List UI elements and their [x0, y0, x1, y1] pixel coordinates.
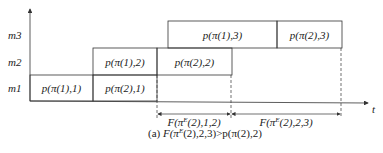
machine-label-m2: m2 — [8, 56, 22, 68]
job-label: p(π(1),2) — [104, 56, 145, 69]
job-box: p(π(2),1) — [93, 75, 157, 101]
interval-label: F(πE(2),2,3) — [258, 116, 313, 129]
job-label: p(π(2),2) — [174, 56, 215, 69]
job-label: p(π(1),1) — [41, 82, 82, 95]
job-label: p(π(2),3) — [289, 29, 330, 42]
job-box: p(π(2),3) — [277, 21, 342, 48]
time-axis-label: t — [372, 103, 376, 115]
gantt-diagram: m1m2m3 p(π(1),1)p(π(2),1)p(π(1),2)p(π(2)… — [0, 0, 383, 153]
job-box: p(π(1),3) — [168, 21, 277, 48]
machine-label-m3: m3 — [8, 29, 22, 41]
job-box: p(π(1),2) — [93, 48, 157, 75]
job-box: p(π(2),2) — [157, 48, 232, 75]
job-label: p(π(2),1) — [104, 82, 145, 95]
figure-caption: (a) F(πE(2),2,3)>p(π(2),2) — [148, 127, 262, 140]
job-label: p(π(1),3) — [202, 29, 243, 42]
job-box: p(π(1),1) — [30, 75, 93, 101]
machine-label-m1: m1 — [8, 82, 21, 94]
